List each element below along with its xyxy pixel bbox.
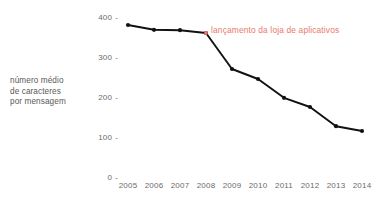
data-point-2009 (230, 67, 234, 71)
data-point-2006 (152, 28, 156, 32)
data-point-2012 (308, 105, 312, 109)
data-point-2014 (360, 129, 364, 133)
series-line (128, 25, 362, 131)
data-point-2007 (178, 28, 182, 32)
series-markers (126, 23, 364, 133)
chart-container: número médio de caracteres por mensagem … (0, 0, 386, 205)
annotation-marker-dot (204, 31, 208, 35)
data-point-2011 (282, 96, 286, 100)
data-point-2013 (334, 124, 338, 128)
data-point-2010 (256, 77, 260, 81)
data-point-2005 (126, 23, 130, 27)
annotation-app-store-launch: lançamento da loja de aplicativos (211, 25, 339, 35)
